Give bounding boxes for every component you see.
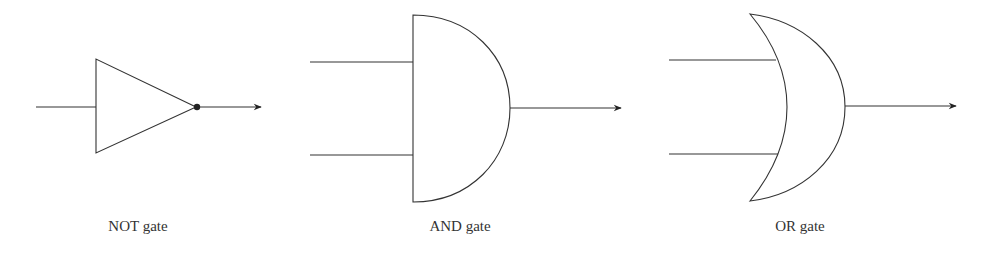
not-gate [36,59,261,153]
and-gate-body [413,15,510,202]
not-gate-label: NOT gate [108,218,167,235]
and-gate [310,15,621,202]
or-gate-label: OR gate [775,218,825,235]
or-gate [669,14,956,201]
logic-gates-diagram [0,0,991,254]
not-gate-triangle [96,59,196,153]
and-gate-label: AND gate [429,218,490,235]
not-inversion-dot [194,104,200,110]
or-gate-body [750,14,845,201]
